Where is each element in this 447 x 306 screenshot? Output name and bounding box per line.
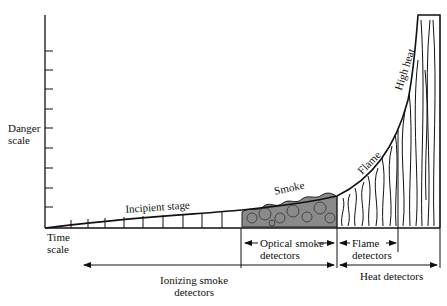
danger-curve bbox=[45, 15, 440, 228]
smoke-region bbox=[242, 193, 337, 227]
heat-detectors-label: Heat detectors bbox=[360, 270, 423, 282]
ionizing-line1: Ionizing smoke bbox=[160, 274, 228, 286]
flame-line2: detectors bbox=[352, 249, 392, 261]
optical-line1: Optical smoke bbox=[260, 237, 324, 249]
flame-line1: Flame bbox=[352, 237, 392, 249]
ionizing-line2: detectors bbox=[160, 286, 228, 298]
fire-stages-diagram: Danger scale Time scale Incipient stage … bbox=[0, 0, 447, 306]
y-axis bbox=[45, 15, 53, 228]
x-axis-label-line1: Time bbox=[47, 231, 70, 243]
x-axis-label: Time scale bbox=[47, 231, 70, 255]
optical-smoke-detectors-label: Optical smoke detectors bbox=[260, 237, 324, 261]
y-axis-label: Danger scale bbox=[8, 122, 40, 146]
ionizing-smoke-detectors-label: Ionizing smoke detectors bbox=[160, 274, 228, 298]
y-axis-label-line2: scale bbox=[8, 134, 40, 146]
flame-detectors-label: Flame detectors bbox=[352, 237, 392, 261]
flame-region bbox=[342, 20, 435, 226]
y-axis-label-line1: Danger bbox=[8, 122, 40, 134]
x-axis-label-line2: scale bbox=[47, 243, 70, 255]
optical-line2: detectors bbox=[260, 249, 324, 261]
